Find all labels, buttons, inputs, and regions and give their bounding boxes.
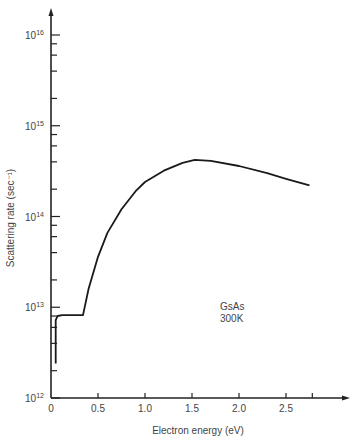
x-axis-title: Electron energy (eV): [152, 425, 244, 436]
material-label: GsAs: [220, 301, 244, 312]
temperature-label: 300K: [220, 313, 244, 324]
x-tick-label: 2.0: [232, 403, 246, 414]
scattering-rate-chart: 10121013101410151016 00.51.01.52.02.5 El…: [0, 0, 353, 445]
y-tick-label: 1015: [25, 120, 44, 132]
y-tick-label: 1013: [25, 301, 44, 313]
y-axis: 10121013101410151016: [25, 8, 60, 404]
y-tick-label: 1014: [25, 211, 44, 223]
y-tick-label: 1016: [25, 29, 44, 41]
y-axis-title: Scattering rate (sec⁻¹): [5, 169, 16, 267]
y-tick-label: 1012: [25, 392, 44, 404]
x-axis: 00.51.01.52.02.5: [48, 393, 350, 414]
x-tick-label: 0.5: [91, 403, 105, 414]
x-tick-label: 1.5: [185, 403, 199, 414]
x-tick-label: 0: [48, 403, 54, 414]
x-tick-label: 1.0: [138, 403, 152, 414]
x-tick-label: 2.5: [279, 403, 293, 414]
scattering-rate-curve: [56, 160, 310, 364]
